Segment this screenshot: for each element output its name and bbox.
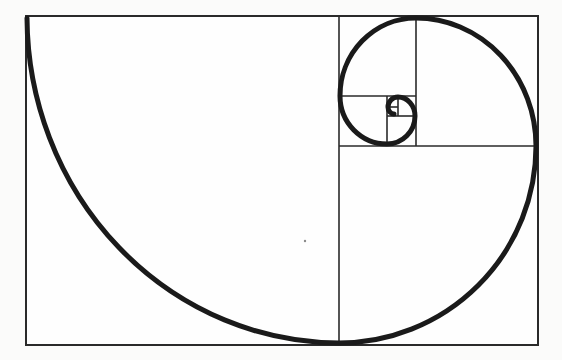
golden-spiral-diagram: Golden spiral xyxy=(0,0,562,360)
speck xyxy=(304,240,306,242)
outer-rectangle xyxy=(26,16,538,345)
